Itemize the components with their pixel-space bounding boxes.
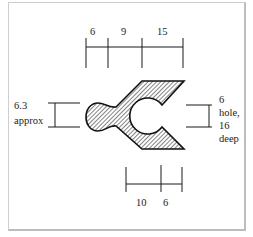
right-dim-line-3: 16 [219, 120, 230, 131]
right-dim-line-4: deep [219, 133, 239, 144]
bottom-dim-label-2: 6 [163, 197, 168, 208]
left-dimension [48, 103, 80, 127]
bottom-dimension [126, 165, 182, 192]
left-dim-value: 6.3 [14, 100, 27, 111]
top-dim-label-3: 15 [157, 26, 168, 37]
top-dimension [86, 38, 183, 68]
top-dim-label-1: 6 [90, 26, 95, 37]
right-dimension [186, 105, 212, 127]
profile-diagram: 6 9 15 6.3 approx 6 hole, 16 deep 10 6 [0, 0, 253, 237]
top-dim-label-2: 9 [121, 26, 126, 37]
bottom-dim-label-1: 10 [136, 197, 147, 208]
right-dim-line-2: hole, [219, 107, 240, 118]
profile-shape [86, 81, 184, 149]
right-dim-line-1: 6 [219, 94, 224, 105]
left-dim-note: approx [14, 115, 44, 126]
